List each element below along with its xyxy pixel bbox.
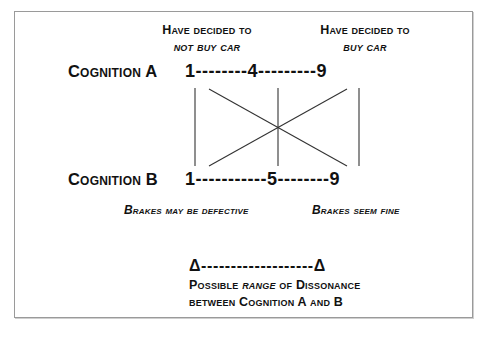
dissonance-range-marker: Δ-------------------Δ — [189, 257, 326, 275]
caption-emphasis: range — [242, 278, 276, 292]
dissonance-caption-line1: Possible range of Dissonance — [189, 277, 360, 294]
caption-brakes-fine: Brakes seem fine — [312, 203, 399, 217]
dissonance-caption: Possible range of Dissonance between Cog… — [189, 277, 360, 311]
caption-text: of Dissonance — [276, 278, 361, 292]
caption-brakes-defective: Brakes may be defective — [124, 203, 248, 217]
dissonance-caption-line2: between Cognition A and B — [189, 294, 360, 311]
caption-text: Possible — [189, 278, 242, 292]
